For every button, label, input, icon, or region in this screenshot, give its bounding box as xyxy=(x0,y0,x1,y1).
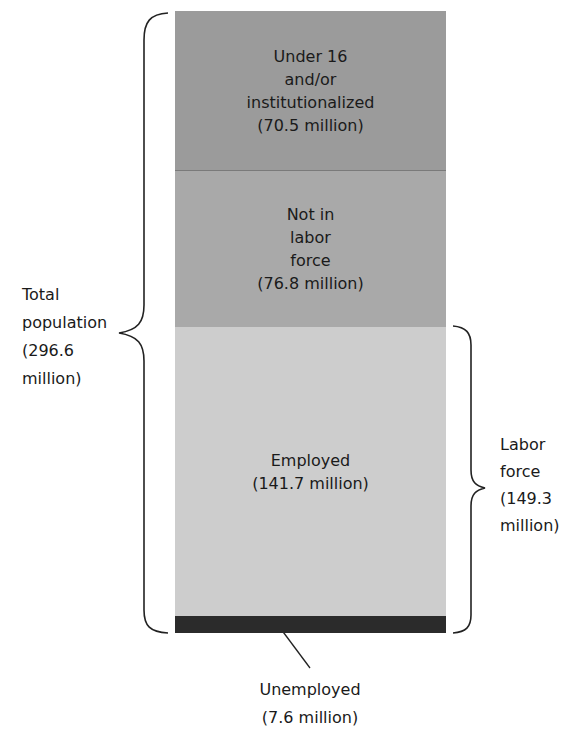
total-population-label: Total population (296.6 million) xyxy=(22,281,107,393)
segment-unemployed xyxy=(175,616,446,633)
labor-force-label: Labor force (149.3 million) xyxy=(500,431,560,539)
segment-label: Not in labor force (76.8 million) xyxy=(257,203,364,295)
unemployed-label: Unemployed (7.6 million) xyxy=(200,676,420,732)
segment-label: Under 16 and/or institutionalized (70.5 … xyxy=(247,45,375,137)
segment-label: Employed (141.7 million) xyxy=(252,449,369,495)
total-population-brace xyxy=(119,13,168,633)
segment-under-16-institutionalized: Under 16 and/or institutionalized (70.5 … xyxy=(175,11,446,171)
segment-not-in-labor-force: Not in labor force (76.8 million) xyxy=(175,171,446,327)
segment-employed: Employed (141.7 million) xyxy=(175,327,446,616)
labor-force-brace xyxy=(453,326,485,633)
